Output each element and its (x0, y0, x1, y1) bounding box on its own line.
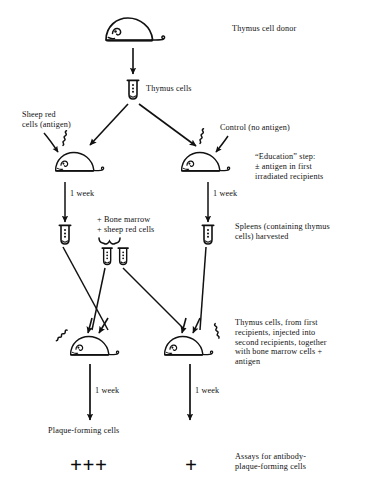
tube-mid-left-icon (102, 248, 112, 264)
arrow-split-left (90, 104, 128, 145)
label-one-week-right-second: 1 week (195, 386, 219, 396)
irradiation-squiggle-left-second-icon (56, 328, 67, 342)
arrow-into-right-second-recipient-a (182, 318, 186, 333)
label-spleens-harvested: Spleens (containing thymus cells) harves… (235, 222, 330, 242)
label-bone-marrow-sheep-red-cells: + Bone marrow + sheep red cells (97, 215, 154, 235)
arrow-into-left-second-recipient-a (88, 318, 92, 333)
mouse-right-second-recipient-icon (165, 336, 213, 355)
label-one-week-right-first: 1 week (213, 189, 237, 199)
tube-mid-right-icon (118, 248, 128, 264)
label-sheep-red-cells-antigen: Sheep red cells (antigen) (22, 110, 71, 130)
irradiation-squiggle-right-second-icon (212, 324, 222, 339)
mouse-left-first-recipient-icon (56, 152, 104, 171)
irradiation-squiggle-left-first-icon (63, 131, 67, 146)
line-mid-right-tube-to-second-recipient (123, 268, 185, 330)
label-thymus-cell-donor: Thymus cell donor (232, 24, 296, 34)
arrow-antigen-into-left-mouse (44, 133, 58, 152)
mouse-donor-icon (106, 18, 165, 41)
tube-thymus-cells-icon (127, 80, 138, 99)
line-right-spleen-to-second-recipient (200, 247, 206, 330)
label-education-step: “Education” step: ± antigen in first irr… (255, 152, 323, 181)
irradiation-squiggle-right-first-icon (200, 129, 204, 144)
label-one-week-left-second: 1 week (95, 386, 119, 396)
arrow-into-right-second-recipient-b (193, 318, 200, 333)
mouse-left-second-recipient-icon (71, 336, 119, 355)
label-one-week-left-first: 1 week (70, 189, 94, 199)
label-control-no-antigen: Control (no antigen) (220, 123, 290, 133)
mouse-right-first-recipient-icon (182, 152, 230, 171)
curly-brace-bone-marrow-icon (99, 238, 120, 244)
label-plaque-forming-cells: Plaque-forming cells (48, 426, 119, 436)
result-left-plus-plus-plus: +++ (70, 455, 107, 476)
result-right-plus: + (185, 455, 197, 476)
arrow-split-right (139, 104, 196, 146)
label-assays-for-antibody: Assays for antibody- plaque-forming cell… (235, 452, 306, 472)
tube-left-spleen-icon (59, 225, 70, 244)
tube-right-spleen-icon (202, 225, 213, 244)
label-thymus-cells-second-recipients: Thymus cells, from first recipients, inj… (235, 318, 327, 367)
arrow-control-into-right-mouse (216, 136, 228, 152)
label-thymus-cells: Thymus cells (146, 84, 192, 94)
figure-canvas: Thymus cell donor Thymus cells Sheep red… (0, 0, 365, 497)
diagram-graphics (0, 0, 365, 497)
